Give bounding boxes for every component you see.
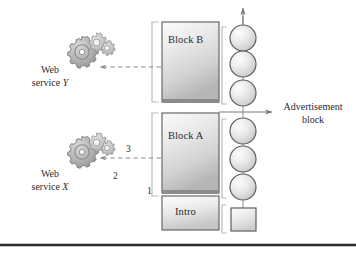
bracket-block-a: [152, 113, 158, 196]
ad-node-5[interactable]: [230, 146, 256, 172]
advertisement-block-label: Advertisement block: [272, 101, 354, 126]
bracket-nodes-b: [222, 27, 226, 104]
web-service-x-label: Web service X: [18, 168, 82, 193]
web-service-x-line2-italic: X: [62, 181, 68, 192]
ad-node-1[interactable]: [230, 25, 256, 51]
block-a-rect[interactable]: [162, 113, 219, 193]
ad-node-4[interactable]: [230, 118, 256, 144]
ad-node-3[interactable]: [230, 80, 256, 106]
ad-node-6[interactable]: [230, 174, 256, 200]
web-service-x-line2-prefix: service: [32, 181, 63, 192]
advertisement-label-line1: Advertisement: [272, 101, 354, 114]
web-service-x-line1: Web: [18, 168, 82, 181]
intro-label: Intro: [175, 206, 196, 218]
bracket-nodes-a: [222, 119, 226, 198]
web-service-x-line2: service X: [18, 181, 82, 194]
annotation-1: 1: [147, 186, 152, 197]
web-service-y-label: Web service Y: [18, 64, 82, 89]
advertisement-node-chain: [230, 25, 256, 231]
web-service-y-line2-prefix: service: [32, 77, 63, 88]
bracket-node-intro: [222, 205, 226, 233]
block-a-base-bar: [162, 190, 219, 194]
block-b-base-bar: [162, 99, 219, 103]
bracket-block-b: [152, 22, 158, 102]
annotation-3: 3: [126, 144, 131, 155]
block-b-label: Block B: [168, 34, 203, 46]
gears-icon-service-y: [68, 33, 116, 68]
advertisement-label-line2: block: [272, 114, 354, 127]
web-service-y-line1: Web: [18, 64, 82, 77]
ad-node-2[interactable]: [230, 51, 256, 77]
annotation-2: 2: [113, 171, 118, 182]
block-a-label: Block A: [168, 130, 203, 142]
gears-icon-service-x: [68, 133, 116, 168]
ad-node-square[interactable]: [231, 208, 256, 231]
web-service-y-line2: service Y: [18, 77, 82, 90]
block-stack: [162, 22, 219, 230]
figure-canvas: Block B Block A Intro Web service Y Web …: [0, 0, 356, 253]
web-service-y-line2-italic: Y: [63, 77, 69, 88]
